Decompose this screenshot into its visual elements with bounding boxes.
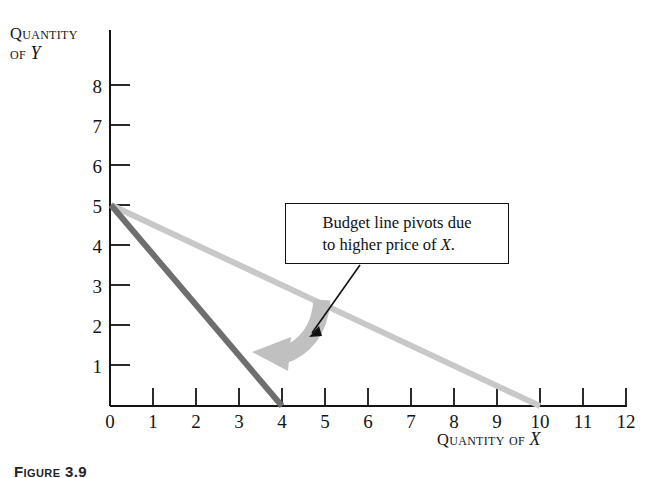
- x-tick-label-7: 7: [399, 412, 423, 431]
- figure-container: 1 2 3 4 5 6 7 8 0 1 2 3 4 5 6 7 8 9 10 1…: [0, 0, 650, 478]
- x-tick-label-0: 0: [98, 412, 122, 431]
- y-tick-label-8: 8: [78, 77, 102, 96]
- y-tick-label-6: 6: [78, 157, 102, 176]
- y-axis-title: Quantity of Y: [10, 24, 78, 65]
- x-tick-label-3: 3: [227, 412, 251, 431]
- y-tick-label-4: 4: [78, 237, 102, 256]
- x-axis-variable: X: [529, 429, 540, 449]
- callout-period: .: [451, 235, 455, 254]
- x-tick-label-11: 11: [571, 412, 595, 431]
- callout-line2: to higher price of: [323, 235, 441, 254]
- figure-caption: Figure 3.9: [14, 463, 87, 478]
- x-tick-label-2: 2: [184, 412, 208, 431]
- y-axis-title-line2: of Y: [10, 43, 78, 64]
- y-tick-label-2: 2: [78, 317, 102, 336]
- x-tick-label-4: 4: [270, 412, 294, 431]
- callout-box: Budget line pivots dueto higher price of…: [285, 203, 509, 264]
- new-budget-line: [111, 205, 282, 406]
- x-axis-title-text: Quantity of: [437, 430, 529, 449]
- x-axis-title: Quantity of X: [437, 429, 541, 450]
- y-tick-label-7: 7: [78, 117, 102, 136]
- y-axis-title-line1: Quantity: [10, 24, 78, 43]
- x-tick-label-1: 1: [141, 412, 165, 431]
- callout-text: Budget line pivots dueto higher price of…: [313, 212, 482, 256]
- x-tick-label-12: 12: [614, 412, 638, 431]
- y-axis-variable: Y: [30, 43, 40, 63]
- callout-line1: Budget line pivots due: [323, 213, 472, 232]
- x-axis-ticks: [153, 388, 626, 406]
- y-tick-label-1: 1: [78, 357, 102, 376]
- x-tick-label-5: 5: [313, 412, 337, 431]
- y-axis-title-of: of: [10, 44, 30, 63]
- y-tick-label-3: 3: [78, 277, 102, 296]
- x-tick-label-6: 6: [356, 412, 380, 431]
- callout-variable: X: [441, 235, 451, 254]
- y-tick-label-5: 5: [78, 197, 102, 216]
